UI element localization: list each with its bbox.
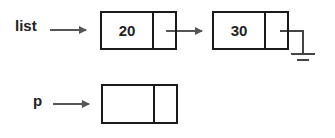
list-node-2: 30 — [212, 11, 289, 50]
node-data-cell: 30 — [214, 13, 266, 48]
list-label: list — [15, 18, 37, 33]
node-data-cell: 20 — [102, 13, 154, 48]
list-node-1: 20 — [100, 11, 177, 50]
node-next-cell — [155, 86, 176, 122]
p-node — [101, 84, 178, 124]
node-next-cell — [266, 13, 287, 48]
node-next-cell — [154, 13, 175, 48]
p-label: p — [33, 93, 42, 108]
node-data-cell — [103, 86, 155, 122]
